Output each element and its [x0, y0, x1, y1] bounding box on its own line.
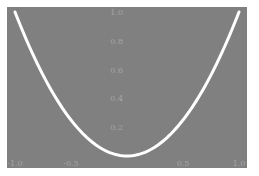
y-axis-tick-labels: 0.20.40.60.81.0	[110, 8, 123, 132]
y-tick-label: 0.4	[110, 94, 123, 103]
y-tick-label: 0.6	[110, 66, 123, 75]
chart-plot-area: 0.20.40.60.81.0 -1.0-0.50.51.0	[7, 7, 247, 168]
y-tick-label: 1.0	[110, 8, 123, 17]
y-tick-label: 0.2	[110, 123, 123, 132]
parabola-chart: 0.20.40.60.81.0 -1.0-0.50.51.0	[7, 7, 247, 168]
x-tick-label: 1.0	[233, 159, 246, 168]
y-tick-label: 0.8	[110, 37, 123, 46]
x-tick-label: -0.5	[63, 159, 78, 168]
x-axis-tick-labels: -1.0-0.50.51.0	[7, 159, 245, 168]
x-tick-label: -1.0	[7, 159, 22, 168]
parabola-curve	[15, 12, 239, 156]
x-tick-label: 0.5	[177, 159, 190, 168]
